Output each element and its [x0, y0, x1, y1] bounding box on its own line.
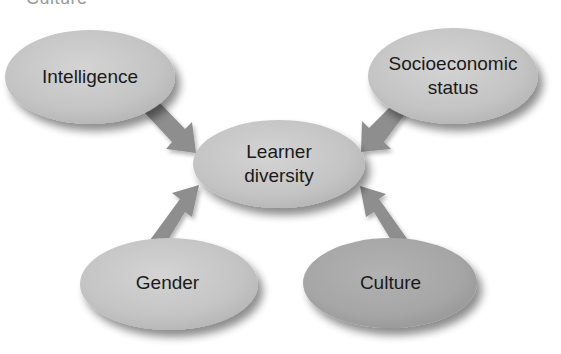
arrow-gender-to-center [150, 185, 199, 240]
label-culture: Culture [308, 260, 473, 306]
label-socioeconomic-line1: Socioeconomic [389, 52, 518, 76]
label-socioeconomic: Socioeconomic status [370, 48, 536, 104]
arrow-intelligence-to-center [145, 101, 196, 153]
label-center-line2: diversity [244, 164, 314, 188]
label-intelligence: Intelligence [10, 52, 170, 102]
arrow-culture-to-center [360, 186, 408, 240]
label-center-line1: Learner [246, 140, 312, 164]
label-intelligence-line1: Intelligence [42, 65, 138, 89]
label-learner-diversity: Learner diversity [200, 136, 358, 192]
label-gender: Gender [85, 260, 250, 306]
label-culture-line1: Culture [360, 271, 421, 295]
label-gender-line1: Gender [136, 271, 199, 295]
label-socioeconomic-line2: status [428, 76, 479, 100]
